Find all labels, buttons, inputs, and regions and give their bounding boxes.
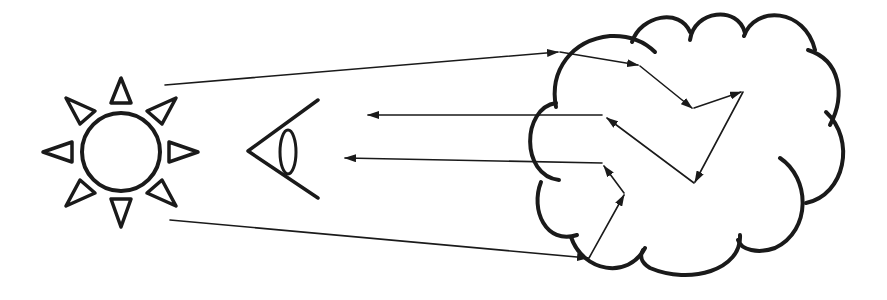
sun-ray-top-right	[147, 98, 176, 124]
eye-lids	[248, 100, 318, 198]
arrow-scatter-bottom-2	[604, 166, 624, 193]
arrow-scatter-bottom-1	[589, 195, 624, 258]
sun-disc	[82, 113, 160, 191]
arrow-incoming-top	[165, 52, 558, 85]
diagram-svg	[0, 0, 887, 300]
arrow-incoming-bottom	[170, 220, 588, 258]
sun-icon	[43, 78, 198, 227]
arrow-scatter-top-5	[607, 118, 694, 183]
sun-ray-bottom	[111, 199, 131, 227]
arrow-scatter-top-2	[640, 66, 692, 108]
diagram-canvas: Sunlight scattering inside a cloud	[0, 0, 887, 300]
sun-ray-top	[111, 78, 131, 103]
sun-ray-left	[43, 142, 72, 162]
sun-ray-bottom-left	[66, 180, 95, 206]
arrow-outgoing-2	[345, 158, 602, 163]
arrow-scatter-top-3	[694, 92, 741, 108]
arrow-scatter-top-1	[560, 52, 638, 65]
sun-ray-top-left	[66, 98, 95, 124]
sun-ray-right	[169, 142, 198, 162]
sun-ray-bottom-right	[147, 180, 176, 206]
eye-icon	[248, 100, 318, 198]
cloud-icon	[530, 15, 843, 275]
eye-lens	[280, 130, 296, 174]
